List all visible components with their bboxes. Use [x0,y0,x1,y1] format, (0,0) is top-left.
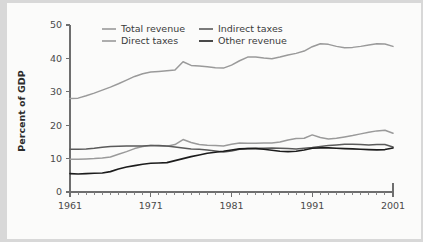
chart-figure: 01020304050 19611971198119912001 Percent… [7,3,421,239]
chart-series-lines [70,44,393,174]
legend-label: Direct taxes [121,35,178,46]
y-axis-tick-labels: 01020304050 [50,19,62,197]
revenue-percent-of-gdp-line-chart: 01020304050 19611971198119912001 Percent… [7,3,421,239]
legend-item-direct-taxes[interactable]: Direct taxes [102,35,178,46]
legend-label: Indirect taxes [218,23,283,34]
x-axis-tick-labels: 19611971198119912001 [58,200,405,211]
legend-item-total-revenue[interactable]: Total revenue [102,23,185,34]
y-tick-label: 10 [50,153,62,164]
legend-item-indirect-taxes[interactable]: Indirect taxes [199,23,283,34]
y-tick-label: 20 [50,120,62,131]
y-axis-title: Percent of GDP [16,70,27,151]
x-tick-label: 1981 [219,200,243,211]
x-tick-label: 1991 [300,200,324,211]
y-tick-label: 0 [56,186,62,197]
legend-label: Other revenue [218,35,287,46]
series-line-total-revenue [70,44,393,99]
legend-label: Total revenue [120,23,185,34]
chart-axes [66,25,393,197]
series-line-other-revenue [70,148,393,174]
x-tick-label: 1961 [58,200,82,211]
y-tick-label: 40 [50,53,62,64]
y-tick-label: 50 [50,19,62,30]
legend-item-other-revenue[interactable]: Other revenue [199,35,287,46]
y-tick-label: 30 [50,86,62,97]
x-tick-label: 1971 [139,200,163,211]
x-tick-label: 2001 [381,200,405,211]
chart-legend: Total revenueIndirect taxesDirect taxesO… [102,23,287,46]
